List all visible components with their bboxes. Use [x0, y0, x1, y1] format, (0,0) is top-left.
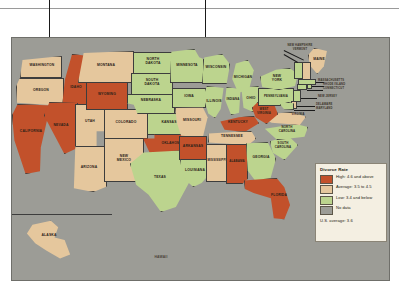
legend-swatch-average — [320, 185, 333, 194]
state-label-indiana lab-sm: INDIANA — [223, 98, 243, 101]
leader-maryland — [294, 110, 315, 111]
legend-title: Divorce Rate — [320, 167, 383, 172]
legend-swatch-low — [320, 196, 333, 205]
state-utah[interactable] — [75, 104, 105, 148]
state-label-north-carolina-2: CAROLINA — [272, 130, 302, 133]
state-label-west-virginia-2: VIRGINIA — [251, 112, 277, 115]
state-label-utah: UTAH — [77, 120, 103, 124]
state-label-missouri: MISSOURI — [175, 119, 209, 123]
state-label-tennessee: TENNESSEE — [208, 135, 256, 139]
state-label-alaska: ALASKA — [32, 234, 66, 238]
state-label-nevada: NEVADA — [46, 124, 76, 128]
state-label-virginia: VIRGINIA — [287, 114, 309, 117]
legend-item-nodata[interactable]: No data — [320, 206, 383, 215]
map-legend: Divorce Rate High: 4.6 and above Average… — [315, 163, 387, 242]
state-label-kentucky: KENTUCKY — [218, 121, 258, 125]
state-label-california: CALIFORNIA — [14, 130, 48, 134]
state-label-colorado: COLORADO — [106, 121, 146, 125]
state-label-new-jersey: NEW JERSEY — [318, 96, 362, 99]
state-label-washington: WASHINGTON — [22, 64, 62, 68]
state-label-vermont: VERMONT — [276, 49, 324, 52]
state-label-iowa: IOWA — [174, 95, 204, 99]
leader-delaware — [297, 106, 315, 107]
state-florida[interactable] — [244, 178, 292, 220]
legend-footnote: U.S. average: 3.6 — [320, 218, 383, 223]
state-label-hawaii: HAWAII — [144, 256, 178, 260]
state-label-wyoming: WYOMING — [88, 93, 126, 97]
leader-connecticut — [307, 90, 323, 91]
state-label-south-carolina-2: CAROLINA — [270, 146, 296, 149]
state-label-wisconsin: WISCONSIN — [202, 66, 230, 70]
state-label-north-dakota-2: DAKOTA — [135, 62, 171, 66]
state-label-oregon: OREGON — [20, 89, 62, 93]
state-label-montana: MONTANA — [80, 64, 132, 68]
ocean-north — [12, 38, 389, 52]
state-label-new-york-2: YORK — [264, 79, 290, 83]
state-label-pennsylvania: PENNSYLVANIA — [257, 95, 295, 98]
legend-label-nodata: No data — [336, 206, 351, 211]
legend-swatch-nodata — [320, 206, 333, 215]
legend-swatch-high — [320, 175, 333, 184]
legend-item-low[interactable]: Low: 3.4 and below — [320, 196, 383, 205]
screenshot-root: WASHINGTON OREGON IDAHO CALIFORNIA NEVAD… — [0, 0, 399, 285]
us-map[interactable]: WASHINGTON OREGON IDAHO CALIFORNIA NEVAD… — [11, 37, 390, 281]
state-label-maryland: MARYLAND — [316, 108, 360, 111]
legend-item-average[interactable]: Average: 3.5 to 4.5 — [320, 185, 383, 194]
state-label-georgia: GEORGIA — [246, 156, 276, 160]
inset-divider-alaska — [12, 214, 112, 215]
state-label-minnesota: MINNESOTA — [171, 64, 203, 68]
state-label-nebraska: NEBRASKA — [129, 99, 173, 103]
state-label-florida: FLORIDA — [265, 194, 293, 198]
legend-label-average: Average: 3.5 to 4.5 — [336, 185, 371, 190]
state-label-arkansas: ARKANSAS — [178, 145, 208, 149]
state-alabama[interactable] — [226, 144, 248, 184]
top-rule-right — [349, 8, 399, 9]
state-label-alabama: ALABAMA — [225, 160, 249, 163]
state-label-south-dakota-2: DAKOTA — [133, 83, 171, 87]
state-label-arizona: ARIZONA — [73, 166, 105, 170]
legend-item-high[interactable]: High: 4.6 and above — [320, 175, 383, 184]
state-new-hampshire[interactable] — [302, 62, 311, 80]
legend-label-low: Low: 3.4 and below — [336, 196, 372, 201]
state-label-maine: MAINE — [308, 58, 330, 62]
state-label-connecticut: CONNECTICUT — [323, 88, 367, 91]
leader-new-jersey — [301, 98, 317, 99]
state-label-idaho: IDAHO — [64, 86, 88, 90]
legend-label-high: High: 4.6 and above — [336, 175, 374, 180]
state-label-michigan: MICHIGAN — [229, 76, 257, 80]
top-rule — [0, 8, 399, 9]
state-alaska[interactable] — [26, 220, 72, 260]
state-nevada[interactable] — [44, 102, 78, 154]
state-label-texas: TEXAS — [140, 176, 180, 180]
